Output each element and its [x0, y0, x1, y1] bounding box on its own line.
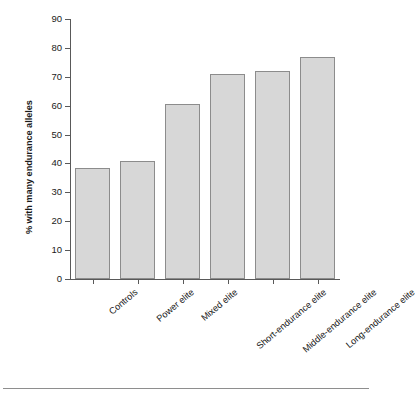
x-axis-line [70, 279, 340, 280]
x-axis-tick [273, 279, 274, 284]
y-axis-tick: 20 [65, 221, 70, 222]
y-axis-tick-label: 10 [51, 243, 62, 256]
y-axis-line [70, 19, 71, 279]
y-axis-tick: 40 [65, 163, 70, 164]
y-axis-tick: 10 [65, 250, 70, 251]
y-axis-title: % with many endurance alleles [22, 0, 36, 234]
x-axis-tick [228, 279, 229, 284]
y-axis-tick-label: 50 [51, 128, 62, 141]
x-axis-tick [318, 279, 319, 284]
y-axis-tick: 60 [65, 106, 70, 107]
x-axis-tick [138, 279, 139, 284]
bar [165, 104, 200, 279]
y-axis-tick: 70 [65, 77, 70, 78]
y-axis-tick-label: 60 [51, 99, 62, 112]
y-axis-tick-label: 20 [51, 214, 62, 227]
y-axis-tick: 30 [65, 192, 70, 193]
y-axis-tick-label: 70 [51, 70, 62, 83]
x-axis-tick-label: Long-endurance elite [344, 287, 417, 351]
y-axis-tick: 90 [65, 19, 70, 20]
bar [210, 74, 245, 279]
bar [300, 57, 335, 279]
y-axis-tick-label: 80 [51, 41, 62, 54]
y-axis-tick: 80 [65, 48, 70, 49]
bar [120, 161, 155, 279]
y-axis-tick-label: 30 [51, 185, 62, 198]
y-axis-tick: 50 [65, 135, 70, 136]
y-axis-tick-label: 90 [51, 12, 62, 25]
x-axis-tick-label: Power elite [154, 287, 196, 325]
y-axis-tick-label: 0 [57, 272, 62, 285]
x-axis-tick [183, 279, 184, 284]
bar [255, 71, 290, 279]
bar [75, 168, 110, 279]
y-axis-tick-label: 40 [51, 156, 62, 169]
x-axis-tick [93, 279, 94, 284]
y-axis-tick: 0 [65, 279, 70, 280]
plot-area: 0102030405060708090 ControlsPower eliteM… [70, 19, 340, 279]
x-axis-tick-label: Controls [107, 287, 140, 317]
bottom-divider [3, 388, 369, 389]
x-axis-tick-label: Mixed elite [199, 287, 240, 324]
